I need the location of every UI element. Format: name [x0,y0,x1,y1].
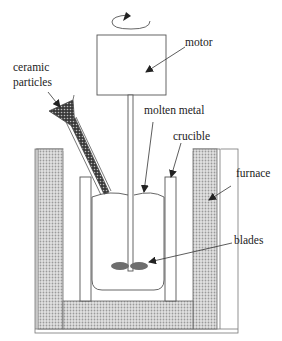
ceramic-leader [48,92,60,107]
crucible-left-wall [80,177,91,301]
label-motor: motor [185,36,212,49]
label-molten-metal: molten metal [144,104,204,117]
motor [97,35,166,95]
label-particles: particles [13,76,52,89]
furnace-floor [63,301,193,329]
label-furnace: furnace [236,167,270,180]
furnace-left-wall [38,149,63,329]
rotation-arrow-icon [112,12,150,29]
label-blades: blades [234,234,263,247]
furnace [35,147,238,333]
stirrer-shaft [128,95,133,271]
molten-metal-leader [144,122,153,192]
label-ceramic: ceramic [13,61,49,74]
crucible-right-wall [165,177,176,301]
label-crucible: crucible [173,130,210,143]
furnace-right-wall [193,149,217,329]
blades-leader [149,243,232,262]
